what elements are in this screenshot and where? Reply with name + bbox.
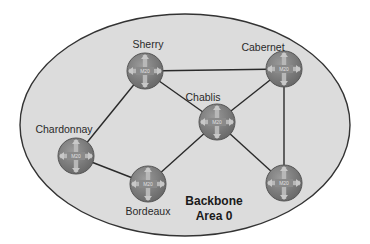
label-sherry: Sherry [133, 38, 165, 50]
svg-text:M20: M20 [212, 119, 222, 125]
svg-text:M20: M20 [71, 153, 81, 159]
label-bordeaux: Bordeaux [126, 205, 172, 217]
area-label-line2: Area 0 [196, 209, 233, 223]
router-chablis: M20 [199, 104, 235, 140]
router-chardonnay: M20 [58, 138, 94, 174]
svg-text:M20: M20 [143, 181, 153, 187]
router-cabernet: M20 [266, 51, 302, 87]
router-sherry: M20 [127, 53, 163, 89]
router-bordeaux: M20 [130, 166, 166, 202]
area-label-line1: Backbone [185, 194, 243, 208]
label-cabernet: Cabernet [241, 41, 284, 53]
svg-text:M20: M20 [279, 66, 289, 72]
label-chablis: Chablis [185, 91, 220, 103]
ospf-backbone-diagram: M20 M20 M20 M20 M20 M20 Sherry Cabernet … [0, 0, 370, 244]
svg-text:M20: M20 [279, 180, 289, 186]
label-chardonnay: Chardonnay [35, 123, 93, 135]
router-unlabeled: M20 [266, 165, 302, 201]
svg-text:M20: M20 [140, 68, 150, 74]
